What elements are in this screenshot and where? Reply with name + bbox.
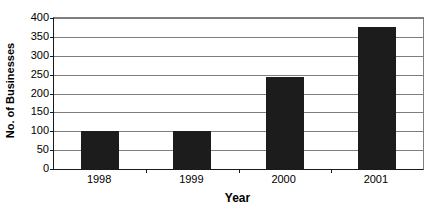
y-axis-tick-label: 100 — [20, 125, 49, 136]
y-axis-tick-mark — [50, 94, 54, 95]
y-axis-title: No. of Businesses — [0, 0, 22, 180]
x-axis-tick-label: 2001 — [364, 173, 388, 186]
bar-chart-figure: No. of Businesses 0501001502002503003504… — [0, 0, 430, 215]
gridline — [54, 18, 423, 19]
x-axis-tick-label: 1998 — [87, 173, 111, 186]
y-axis-tick-label: 50 — [20, 144, 49, 155]
y-axis-tick-labels: 050100150200250300350400 — [20, 17, 49, 168]
y-axis-title-text: No. of Businesses — [6, 42, 17, 137]
y-axis-tick-label: 250 — [20, 68, 49, 79]
y-axis-tick-label: 350 — [20, 30, 49, 41]
bar-1998 — [81, 131, 119, 169]
bar-2000 — [266, 77, 304, 169]
y-axis-tick-mark — [50, 18, 54, 19]
y-axis-tick-mark — [50, 112, 54, 113]
x-axis-title: Year — [53, 191, 422, 205]
y-axis-tick-mark — [50, 56, 54, 57]
y-axis-tick-mark — [50, 75, 54, 76]
bar-2001 — [358, 27, 396, 169]
y-axis-tick-label: 200 — [20, 87, 49, 98]
x-axis-tick-labels: 1998199920002001 — [53, 173, 422, 189]
plot-area — [53, 17, 424, 170]
y-axis-tick-label: 300 — [20, 49, 49, 60]
bar-1999 — [173, 131, 211, 169]
y-axis-tick-mark — [50, 169, 54, 170]
y-axis-tick-mark — [50, 131, 54, 132]
y-axis-tick-label: 0 — [20, 163, 49, 174]
y-axis-tick-label: 400 — [20, 12, 49, 23]
y-axis-tick-label: 150 — [20, 106, 49, 117]
y-axis-tick-mark — [50, 37, 54, 38]
x-axis-tick-label: 2000 — [271, 173, 295, 186]
x-axis-tick-label: 1999 — [179, 173, 203, 186]
y-axis-tick-mark — [50, 150, 54, 151]
